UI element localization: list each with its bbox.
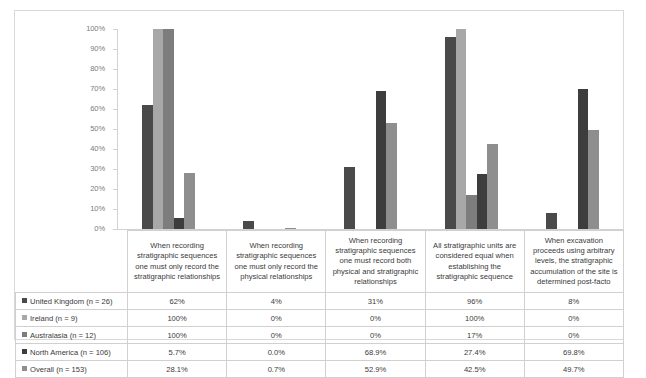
table-value-cell: 0.7% — [227, 361, 326, 378]
bar — [376, 91, 387, 229]
y-axis-tick-label: 50% — [90, 125, 105, 133]
y-axis-tick-label: 30% — [90, 165, 105, 173]
table-row: North America (n = 106)5.7%0.0%68.9%27.4… — [16, 344, 624, 361]
bar-group — [445, 29, 498, 229]
table-value-cell: 100% — [425, 310, 524, 327]
legend-entry: Overall (n = 153) — [16, 361, 128, 378]
table-value-cell: 28.1% — [128, 361, 227, 378]
legend-swatch-icon — [22, 332, 27, 337]
table-value-cell: 4% — [227, 293, 326, 310]
y-axis-tick-label: 10% — [90, 205, 105, 213]
table-value-cell: 69.8% — [524, 344, 623, 361]
bar — [487, 144, 498, 229]
bar-group — [142, 29, 195, 229]
legend-swatch-icon — [22, 315, 27, 320]
legend-label: Australasia (n = 12) — [30, 331, 96, 340]
table-value-cell: 68.9% — [326, 344, 425, 361]
legend-entry: United Kingdom (n = 26) — [16, 293, 128, 310]
table-value-cell: 0% — [227, 327, 326, 344]
table-value-cell: 96% — [425, 293, 524, 310]
table-value-cell: 52.9% — [326, 361, 425, 378]
table-value-cell: 0% — [524, 327, 623, 344]
table-value-cell: 100% — [128, 310, 227, 327]
table-column-header: All stratigraphic units are considered e… — [425, 231, 524, 293]
bar-group — [546, 29, 599, 229]
bar — [285, 228, 296, 229]
legend-swatch-icon — [22, 349, 27, 354]
legend-label: Ireland (n = 9) — [30, 314, 78, 323]
table-value-cell: 49.7% — [524, 361, 623, 378]
legend-entry: North America (n = 106) — [16, 344, 128, 361]
table-value-cell: 27.4% — [425, 344, 524, 361]
y-axis-tick-label: 70% — [90, 85, 105, 93]
y-axis-tick-label: 60% — [90, 105, 105, 113]
legend-swatch-icon — [22, 298, 27, 303]
bar — [142, 105, 153, 229]
legend-label: North America (n = 106) — [30, 348, 111, 357]
bar — [344, 167, 355, 229]
y-axis-labels: 100%90%80%70%60%50%40%30%20%10%0% — [15, 11, 113, 230]
table-header-row: When recording stratigraphic sequences o… — [16, 231, 624, 293]
bar — [578, 89, 589, 229]
table-column-header: When recording stratigraphic sequences o… — [326, 231, 425, 293]
table-row: Overall (n = 153)28.1%0.7%52.9%42.5%49.7… — [16, 361, 624, 378]
legend-label: Overall (n = 153) — [30, 365, 87, 374]
table-value-cell: 17% — [425, 327, 524, 344]
y-axis-tick-label: 90% — [90, 45, 105, 53]
bar — [184, 173, 195, 229]
y-axis-tick-label: 100% — [86, 25, 105, 33]
bar — [588, 130, 599, 229]
legend-entry: Ireland (n = 9) — [16, 310, 128, 327]
bar — [546, 213, 557, 229]
bar — [445, 37, 456, 229]
y-axis-tick-label: 20% — [90, 185, 105, 193]
bar — [456, 29, 467, 229]
y-axis-tick-label: 40% — [90, 145, 105, 153]
table-column-header: When recording stratigraphic sequences o… — [128, 231, 227, 293]
table-value-cell: 0% — [326, 327, 425, 344]
table-column-header: When recording stratigraphic sequences o… — [227, 231, 326, 293]
table-row: Australasia (n = 12)100%0%0%17%0% — [16, 327, 624, 344]
table-column-header: When excavation proceeds using arbitrary… — [524, 231, 623, 293]
table-value-cell: 62% — [128, 293, 227, 310]
table-value-cell: 0% — [524, 310, 623, 327]
table-value-cell: 8% — [524, 293, 623, 310]
bar-group — [344, 29, 397, 229]
bar — [163, 29, 174, 229]
table-value-cell: 100% — [128, 327, 227, 344]
bar — [243, 221, 254, 229]
bar — [153, 29, 164, 229]
bar — [174, 218, 185, 229]
legend-entry: Australasia (n = 12) — [16, 327, 128, 344]
table-value-cell: 0% — [227, 310, 326, 327]
table-row: Ireland (n = 9)100%0%0%100%0% — [16, 310, 624, 327]
table-value-cell: 5.7% — [128, 344, 227, 361]
legend-label: United Kingdom (n = 26) — [30, 297, 113, 306]
table-corner-cell — [16, 231, 128, 293]
y-axis-tick-label: 80% — [90, 65, 105, 73]
table-row: United Kingdom (n = 26)62%4%31%96%8% — [16, 293, 624, 310]
bar — [386, 123, 397, 229]
bar — [477, 174, 488, 229]
table-value-cell: 0.0% — [227, 344, 326, 361]
table-value-cell: 31% — [326, 293, 425, 310]
table-value-cell: 0% — [326, 310, 425, 327]
legend-swatch-icon — [22, 366, 27, 371]
plot-area — [118, 29, 623, 229]
data-table: When recording stratigraphic sequences o… — [15, 230, 624, 378]
bar-group — [243, 29, 296, 229]
chart-table-frame: 100%90%80%70%60%50%40%30%20%10%0% When r… — [14, 10, 624, 340]
table-value-cell: 42.5% — [425, 361, 524, 378]
bar-chart: 100%90%80%70%60%50%40%30%20%10%0% — [15, 11, 623, 230]
bar — [466, 195, 477, 229]
